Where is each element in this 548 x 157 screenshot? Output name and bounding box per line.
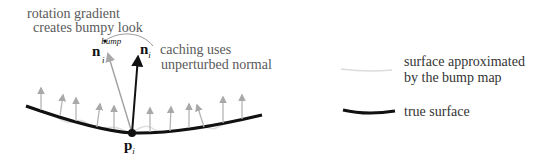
legend-true-surface-label: true surface <box>404 104 470 120</box>
unperturbed-normal-arrow <box>132 57 138 133</box>
n-bump-subscript: i <box>102 55 105 65</box>
point-p-i <box>128 129 136 137</box>
p-i-label: pi <box>124 137 135 156</box>
legend-bump-surface-line1: surface approximated <box>404 54 525 70</box>
n-i-subscript: i <box>148 50 151 60</box>
legend-bump-surface-line2: by the bump map <box>404 70 502 86</box>
legend-true-surface-sample <box>343 110 395 113</box>
n-bump-superscript: bump <box>101 36 121 46</box>
n-bump-label: nbumpi <box>92 42 121 60</box>
legend-bump-surface-sample <box>341 69 392 71</box>
n-i-label: ni <box>140 41 151 60</box>
bump-normal-arrow <box>108 54 132 133</box>
rotation-annotation-line2: creates bumpy look <box>33 20 143 35</box>
caching-annotation-line2: unperturbed normal <box>161 57 272 72</box>
p-i-subscript: i <box>132 146 135 156</box>
rotation-annotation-line1: rotation gradient <box>27 6 120 21</box>
bump-surface-curve <box>26 107 262 133</box>
caching-annotation-line1: caching uses <box>160 42 231 57</box>
n-bump-symbol: n <box>92 43 100 59</box>
